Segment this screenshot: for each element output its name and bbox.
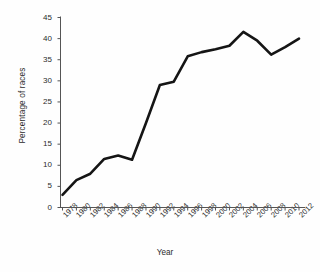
x-axis-title: Year [0, 248, 320, 257]
plot-area [0, 0, 320, 272]
line-chart-figure: Percentage of races 051015202530354045 1… [0, 0, 320, 272]
data-series-line [63, 32, 300, 195]
axis-lines [60, 17, 306, 208]
